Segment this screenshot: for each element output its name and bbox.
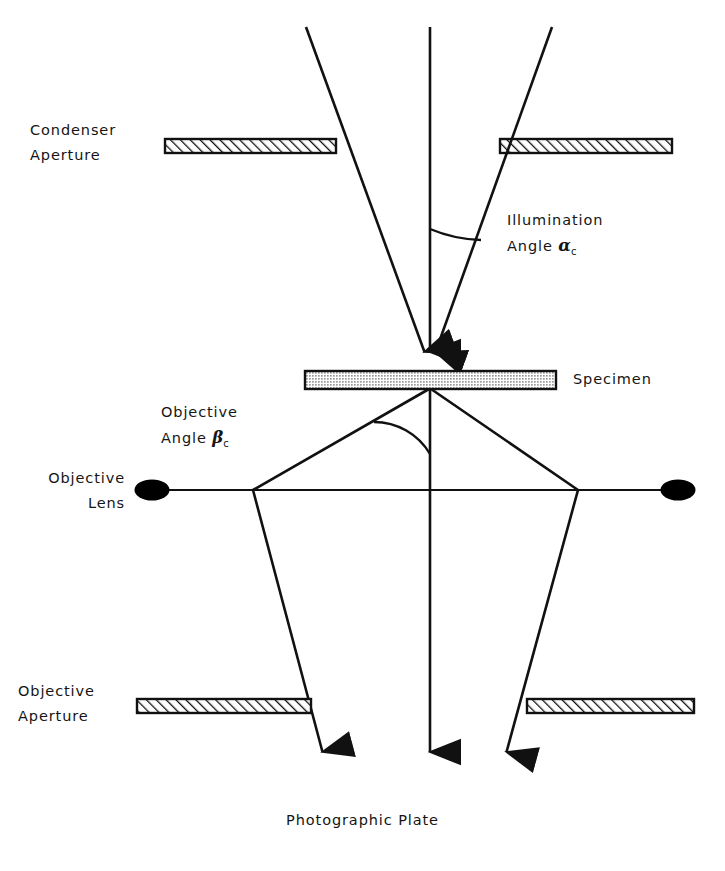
condenser-aperture-label-line1: Condenser: [30, 118, 116, 143]
condenser-aperture-left-bar: [165, 139, 336, 153]
objective-angle-label: Objective Angle βc: [161, 400, 238, 456]
illumination-angle-label-line1: Illumination: [507, 208, 603, 233]
alpha-subscript: c: [571, 246, 577, 257]
alpha-glyph: α: [558, 236, 571, 255]
specimen-label-text: Specimen: [573, 367, 652, 392]
objective-lens-label-line1: Objective: [0, 466, 125, 491]
objective-aperture-left-bar: [137, 699, 311, 713]
objective-angle-label-line2: Angle βc: [161, 425, 238, 456]
objective-aperture-right-bar: [527, 699, 694, 713]
beta-glyph: β: [212, 428, 223, 447]
condenser-aperture-label: Condenser Aperture: [30, 118, 116, 168]
objective-lens: [135, 480, 696, 501]
specimen: [305, 371, 556, 389]
objective-aperture-label: Objective Aperture: [18, 679, 95, 729]
objective-aperture-label-line2: Aperture: [18, 704, 95, 729]
optical-ray-diagram: Condenser Aperture Illumination Angle αc…: [0, 0, 725, 871]
photographic-plate-label: Photographic Plate: [0, 808, 725, 833]
objective-lens-left-pole: [135, 480, 170, 501]
left-diffracted-ray: [253, 389, 429, 752]
right-diffracted-ray: [431, 389, 578, 752]
objective-aperture: [137, 699, 694, 713]
beta-subscript: c: [223, 438, 229, 449]
photographic-plate-label-text: Photographic Plate: [0, 808, 725, 833]
alpha-symbol: αc: [558, 236, 576, 255]
illumination-angle-label: Illumination Angle αc: [507, 208, 603, 264]
illumination-angle-label-line2: Angle αc: [507, 233, 603, 264]
condenser-aperture-label-line2: Aperture: [30, 143, 116, 168]
objective-aperture-label-line1: Objective: [18, 679, 95, 704]
objective-angle-arc: [374, 422, 430, 454]
right-incident-ray: [436, 27, 553, 352]
objective-lens-label-line2: Lens: [0, 491, 125, 516]
illumination-angle-arc: [430, 229, 481, 240]
objective-angle-label-prefix: Angle: [161, 430, 212, 446]
condenser-aperture: [165, 139, 672, 153]
objective-lens-right-pole: [661, 480, 696, 501]
diffracted-ray-group: [253, 389, 578, 752]
specimen-label: Specimen: [573, 367, 652, 392]
incident-ray-group: [306, 27, 552, 352]
objective-lens-label: Objective Lens: [0, 466, 125, 516]
illumination-angle-label-prefix: Angle: [507, 238, 558, 254]
specimen-plate: [305, 371, 556, 389]
beta-symbol: βc: [212, 428, 228, 447]
left-incident-ray: [306, 27, 425, 352]
condenser-aperture-right-bar: [500, 139, 672, 153]
objective-angle-label-line1: Objective: [161, 400, 238, 425]
